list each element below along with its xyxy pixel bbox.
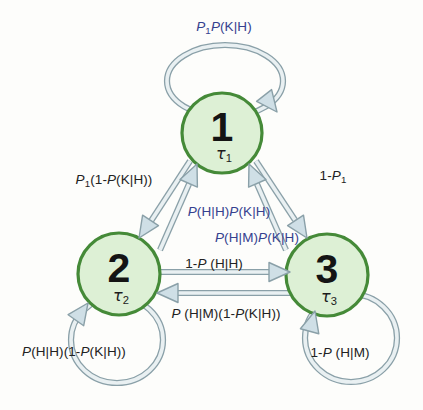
state-3-tau: τ3: [321, 289, 337, 305]
state-transition-diagram: 1 τ1 2 τ2 3 τ3 P1P(K|H) P1(1-P(K|H)) P(H…: [0, 0, 423, 410]
state-1-number: 1: [211, 107, 234, 148]
arrow-3-to-2-head: [157, 284, 178, 303]
label-1-to-2: P1(1-P(K|H)): [76, 173, 153, 187]
label-self-loop-3: 1-P (H|M): [310, 346, 369, 360]
state-2-number: 2: [108, 248, 131, 289]
state-2-tau: τ2: [113, 288, 129, 304]
label-1-to-3: 1-P1: [320, 169, 347, 183]
self-loop-2-head: [68, 303, 88, 326]
state-3-number: 3: [316, 249, 339, 290]
arrow-2-to-1-shaft: [160, 184, 189, 250]
label-2-to-1: P(H|H)P(K|H): [188, 205, 270, 219]
label-self-loop-2: P(H|H)(1-P(K|H)): [22, 345, 126, 359]
label-3-to-2: P (H|M)(1-P(K|H)): [171, 307, 280, 321]
label-3-to-1: P(H|M)P(K|H): [215, 231, 299, 245]
label-self-loop-1: P1P(K|H): [196, 20, 252, 34]
label-2-to-3: 1-P (H|H): [185, 257, 243, 271]
state-1-tau: τ1: [216, 146, 232, 162]
